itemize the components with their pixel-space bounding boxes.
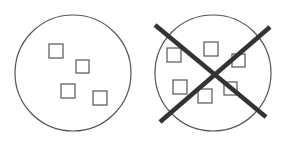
left-square [76,60,89,73]
right-square [173,80,187,94]
valid-sample-panel [15,15,131,131]
invalid-sample-panel [155,15,271,131]
left-square [93,91,107,105]
right-square [204,42,218,56]
left-square [49,44,63,58]
right-square [198,89,212,103]
left-square [61,84,75,98]
left-circle [15,15,131,131]
right-square [167,48,181,62]
diagram-canvas [0,0,285,142]
